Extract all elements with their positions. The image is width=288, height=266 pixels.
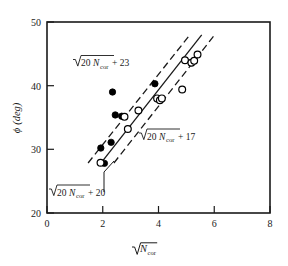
x-axis-title: N cor — [132, 243, 157, 256]
data-point-open — [135, 107, 142, 114]
y-tick-label-50: 50 — [31, 17, 41, 28]
data-point-filled — [109, 89, 115, 95]
x-tick-label-4: 4 — [156, 218, 161, 229]
x-tick-labels: 0 2 4 6 8 — [45, 218, 273, 229]
data-point-open — [179, 86, 186, 93]
data-point-filled — [152, 81, 158, 87]
annotation-lower-offset: + 20 — [88, 188, 105, 198]
plot-frame — [47, 22, 270, 213]
annotation-lower-var: N — [68, 188, 76, 198]
data-point-open — [121, 113, 128, 120]
chart-figure: 50 40 30 20 0 2 4 6 8 ϕ(deg) N cor — [0, 0, 288, 266]
annotation-lower-prefix: 20 — [57, 188, 67, 198]
data-point-open — [158, 95, 165, 102]
data-point-open — [97, 159, 104, 166]
plot-border — [47, 22, 270, 213]
annotation-middle-var: N — [158, 132, 166, 142]
data-point-open — [194, 51, 201, 58]
y-tick-label-20: 20 — [31, 208, 41, 219]
x-tick-label-2: 2 — [100, 218, 105, 229]
scatter-plot: 50 40 30 20 0 2 4 6 8 ϕ(deg) N cor — [0, 0, 288, 266]
annotation-lower-sub: cor — [76, 192, 85, 199]
data-point-open — [124, 126, 131, 133]
x-tick-label-8: 8 — [268, 218, 273, 229]
annotation-middle-offset: + 17 — [178, 132, 195, 142]
y-tick-label-30: 30 — [31, 144, 41, 155]
y-axis-unit: (deg) — [11, 102, 23, 125]
annotation-upper-var: N — [92, 58, 100, 68]
annotation-middle-sub: cor — [166, 136, 175, 143]
y-axis-symbol: ϕ — [11, 127, 22, 133]
x-tick-label-6: 6 — [212, 218, 217, 229]
data-point-open — [191, 57, 198, 64]
annotation-upper-offset: + 23 — [112, 58, 129, 68]
data-point-open — [182, 57, 189, 64]
data-point-filled — [98, 145, 104, 151]
svg-text:ϕ(deg): ϕ(deg) — [11, 102, 23, 133]
data-point-filled — [108, 139, 114, 145]
annotation-upper-prefix: 20 — [81, 58, 91, 68]
annotation-upper-sub: cor — [100, 63, 109, 70]
data-point-filled — [112, 112, 118, 118]
y-axis-title: ϕ(deg) — [11, 102, 23, 133]
x-axis-sub: cor — [148, 249, 157, 256]
x-tick-label-0: 0 — [45, 218, 50, 229]
y-tick-labels: 50 40 30 20 — [31, 17, 41, 219]
annotation-middle-prefix: 20 — [147, 132, 157, 142]
y-tick-label-40: 40 — [31, 81, 41, 92]
